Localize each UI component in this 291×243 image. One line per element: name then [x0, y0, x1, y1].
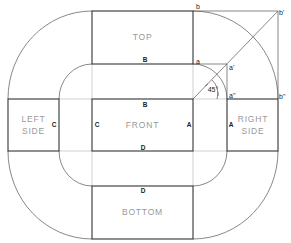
- point-a-prime-label: a': [229, 64, 234, 71]
- edge-label-bottom-d: D: [141, 187, 146, 194]
- edge-label-left-c: C: [52, 121, 57, 128]
- edge-label-right-a: A: [229, 121, 234, 128]
- point-a-double-prime-label: a'': [229, 92, 236, 99]
- right-side-label-line1: RIGHT: [238, 114, 268, 124]
- edge-label-top-b: B: [143, 56, 148, 63]
- point-b-prime-label: b': [279, 9, 284, 16]
- point-b-label: b: [196, 3, 200, 10]
- left-side-label-line2: SIDE: [22, 126, 45, 136]
- projection-diagram: TOP FRONT BOTTOM LEFT SIDE RIGHT SIDE B …: [0, 0, 291, 243]
- edge-label-front-a: A: [187, 121, 192, 128]
- top-label: TOP: [133, 32, 153, 42]
- right-side-label-line2: SIDE: [241, 126, 264, 136]
- angle-45-label: 45°: [208, 86, 219, 93]
- right-side-view-box: [227, 99, 278, 151]
- front-label: FRONT: [126, 120, 159, 130]
- point-b-double-prime-label: b'': [279, 93, 286, 100]
- left-side-label-line1: LEFT: [22, 114, 46, 124]
- edge-label-front-b: B: [143, 101, 148, 108]
- edge-label-front-d: D: [141, 144, 146, 151]
- bottom-label: BOTTOM: [122, 207, 163, 217]
- edge-label-front-c: C: [95, 121, 100, 128]
- point-a-label: a: [196, 58, 200, 65]
